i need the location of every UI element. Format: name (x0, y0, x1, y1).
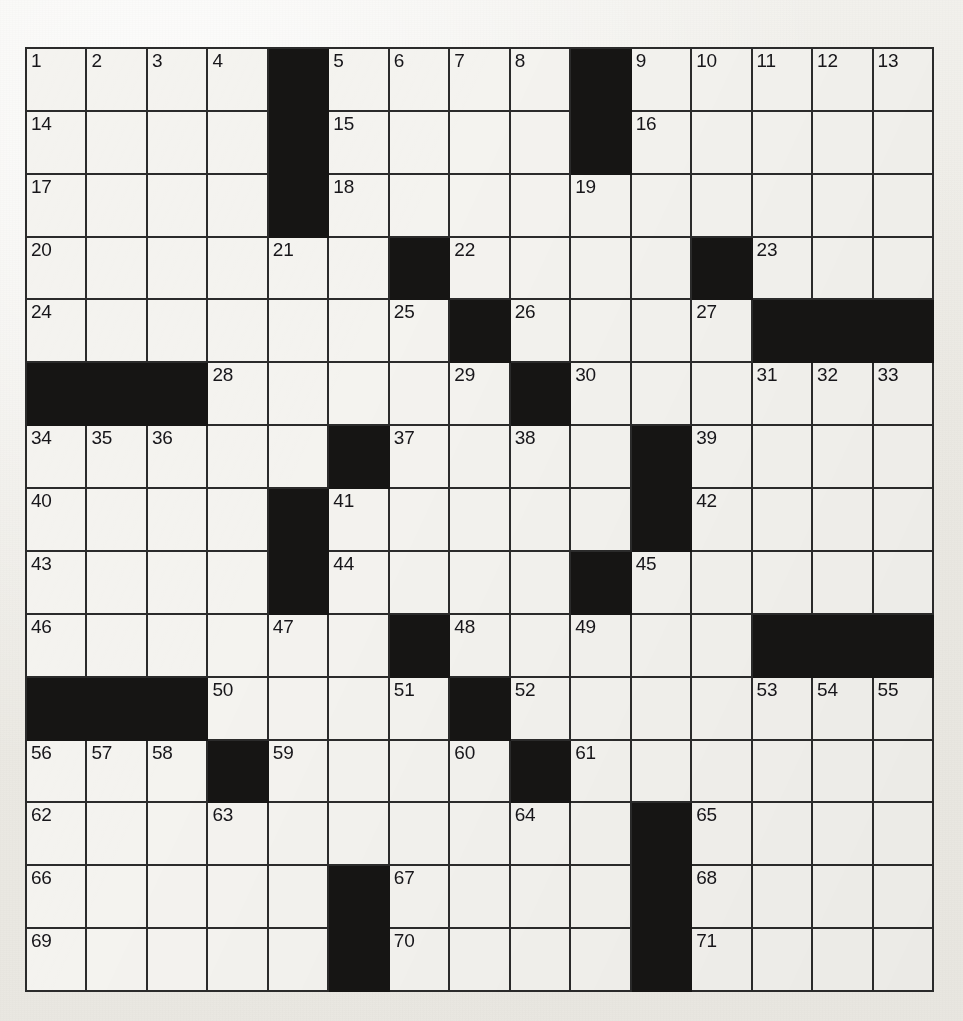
crossword-cell[interactable] (753, 489, 813, 552)
crossword-cell[interactable] (269, 678, 329, 741)
crossword-cell[interactable] (753, 552, 813, 615)
crossword-cell[interactable]: 26 (511, 300, 571, 363)
crossword-cell[interactable]: 15 (329, 112, 389, 175)
crossword-cell[interactable]: 62 (27, 803, 87, 866)
crossword-cell[interactable] (148, 175, 208, 238)
crossword-cell[interactable]: 7 (450, 49, 510, 112)
crossword-cell[interactable] (511, 112, 571, 175)
crossword-cell[interactable]: 47 (269, 615, 329, 678)
crossword-cell[interactable] (87, 112, 147, 175)
crossword-cell[interactable] (208, 238, 268, 301)
crossword-cell[interactable] (632, 300, 692, 363)
crossword-cell[interactable]: 63 (208, 803, 268, 866)
crossword-cell[interactable] (511, 929, 571, 992)
crossword-cell[interactable] (874, 866, 934, 929)
crossword-cell[interactable] (874, 426, 934, 489)
crossword-cell[interactable] (390, 552, 450, 615)
crossword-cell[interactable] (208, 112, 268, 175)
crossword-cell[interactable] (450, 803, 510, 866)
crossword-cell[interactable] (269, 426, 329, 489)
crossword-cell[interactable] (329, 741, 389, 804)
crossword-cell[interactable] (753, 866, 813, 929)
crossword-cell[interactable] (692, 615, 752, 678)
crossword-cell[interactable]: 5 (329, 49, 389, 112)
crossword-cell[interactable]: 28 (208, 363, 268, 426)
crossword-cell[interactable] (753, 112, 813, 175)
crossword-cell[interactable]: 1 (27, 49, 87, 112)
crossword-cell[interactable] (208, 552, 268, 615)
crossword-cell[interactable]: 61 (571, 741, 631, 804)
crossword-cell[interactable] (269, 363, 329, 426)
crossword-cell[interactable] (511, 238, 571, 301)
crossword-cell[interactable] (813, 175, 873, 238)
crossword-cell[interactable]: 14 (27, 112, 87, 175)
crossword-cell[interactable] (874, 929, 934, 992)
crossword-grid[interactable]: 1234567891011121314151617181920212223242… (25, 47, 934, 992)
crossword-cell[interactable] (208, 175, 268, 238)
crossword-cell[interactable] (874, 803, 934, 866)
crossword-cell[interactable] (148, 615, 208, 678)
crossword-cell[interactable] (571, 803, 631, 866)
crossword-cell[interactable] (87, 489, 147, 552)
crossword-cell[interactable] (692, 175, 752, 238)
crossword-cell[interactable] (813, 552, 873, 615)
crossword-cell[interactable] (87, 929, 147, 992)
crossword-cell[interactable]: 25 (390, 300, 450, 363)
crossword-cell[interactable] (511, 175, 571, 238)
crossword-cell[interactable] (148, 300, 208, 363)
crossword-cell[interactable]: 34 (27, 426, 87, 489)
crossword-cell[interactable] (450, 112, 510, 175)
crossword-cell[interactable]: 52 (511, 678, 571, 741)
crossword-cell[interactable]: 59 (269, 741, 329, 804)
crossword-cell[interactable] (148, 866, 208, 929)
crossword-cell[interactable] (692, 112, 752, 175)
crossword-cell[interactable] (511, 552, 571, 615)
crossword-cell[interactable]: 37 (390, 426, 450, 489)
crossword-cell[interactable] (208, 615, 268, 678)
crossword-cell[interactable] (511, 866, 571, 929)
crossword-cell[interactable]: 41 (329, 489, 389, 552)
crossword-cell[interactable] (632, 238, 692, 301)
crossword-cell[interactable] (148, 489, 208, 552)
crossword-cell[interactable] (390, 112, 450, 175)
crossword-cell[interactable] (753, 929, 813, 992)
crossword-cell[interactable] (813, 489, 873, 552)
crossword-cell[interactable]: 67 (390, 866, 450, 929)
crossword-cell[interactable]: 23 (753, 238, 813, 301)
crossword-cell[interactable]: 40 (27, 489, 87, 552)
crossword-cell[interactable] (208, 300, 268, 363)
crossword-cell[interactable] (208, 866, 268, 929)
crossword-cell[interactable] (511, 489, 571, 552)
crossword-cell[interactable] (329, 238, 389, 301)
crossword-cell[interactable]: 70 (390, 929, 450, 992)
crossword-cell[interactable] (390, 363, 450, 426)
crossword-cell[interactable] (571, 489, 631, 552)
crossword-cell[interactable] (632, 678, 692, 741)
crossword-cell[interactable]: 10 (692, 49, 752, 112)
crossword-cell[interactable]: 58 (148, 741, 208, 804)
crossword-cell[interactable] (874, 238, 934, 301)
crossword-cell[interactable] (632, 741, 692, 804)
crossword-cell[interactable]: 55 (874, 678, 934, 741)
crossword-cell[interactable] (329, 803, 389, 866)
crossword-cell[interactable] (450, 929, 510, 992)
crossword-cell[interactable]: 3 (148, 49, 208, 112)
crossword-cell[interactable] (269, 866, 329, 929)
crossword-cell[interactable] (571, 238, 631, 301)
crossword-cell[interactable]: 20 (27, 238, 87, 301)
crossword-cell[interactable] (450, 426, 510, 489)
crossword-cell[interactable] (390, 741, 450, 804)
crossword-cell[interactable] (874, 741, 934, 804)
crossword-cell[interactable] (329, 300, 389, 363)
crossword-cell[interactable] (390, 489, 450, 552)
crossword-cell[interactable]: 50 (208, 678, 268, 741)
crossword-cell[interactable]: 27 (692, 300, 752, 363)
crossword-cell[interactable]: 22 (450, 238, 510, 301)
crossword-cell[interactable] (450, 866, 510, 929)
crossword-cell[interactable]: 38 (511, 426, 571, 489)
crossword-cell[interactable] (753, 175, 813, 238)
crossword-cell[interactable] (571, 300, 631, 363)
crossword-cell[interactable] (87, 300, 147, 363)
crossword-cell[interactable] (692, 552, 752, 615)
crossword-cell[interactable] (450, 489, 510, 552)
